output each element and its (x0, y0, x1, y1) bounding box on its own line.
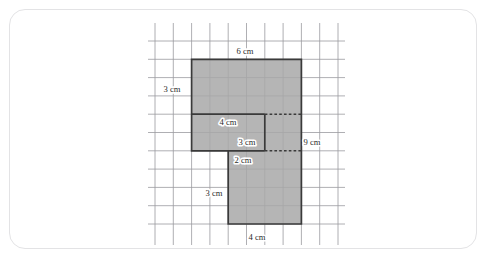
label-left-height: 3 cm (164, 84, 181, 94)
label-lower-left-height: 3 cm (206, 188, 223, 198)
figure-svg: 6 cm 6 cm 3 cm 3 cm 4 cm 4 cm 3 cm 3 cm … (0, 0, 490, 266)
label-inner-width-lower: 2 cm (235, 155, 252, 165)
figure-page: 6 cm 6 cm 3 cm 3 cm 4 cm 4 cm 3 cm 3 cm … (0, 0, 490, 266)
label-right-height: 9 cm (304, 137, 321, 147)
label-inner-width: 4 cm (220, 117, 237, 127)
label-bottom-width: 4 cm (249, 232, 266, 242)
label-top-width: 6 cm (237, 46, 254, 56)
label-inner-height: 3 cm (239, 137, 256, 147)
compound-shape-figure: 6 cm 6 cm 3 cm 3 cm 4 cm 4 cm 3 cm 3 cm … (0, 0, 490, 266)
